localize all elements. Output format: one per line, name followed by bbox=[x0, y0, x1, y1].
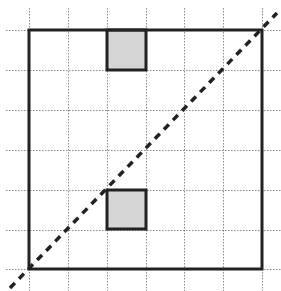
grid-diagram bbox=[0, 0, 281, 291]
bottom-shaded-cell bbox=[107, 190, 146, 229]
shaded-cells bbox=[107, 30, 146, 229]
top-shaded-cell bbox=[107, 30, 146, 70]
